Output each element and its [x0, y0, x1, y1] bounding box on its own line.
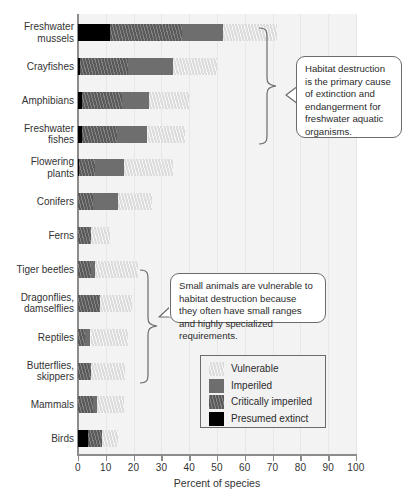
- legend-swatch: [209, 395, 224, 409]
- category-label-line: Tiger beetles: [0, 264, 74, 276]
- x-tick: [328, 455, 329, 461]
- bar-segment: [182, 24, 222, 41]
- x-tick: [189, 455, 190, 461]
- bar-segment: [79, 159, 95, 176]
- category-label-line: Dragonflies,: [0, 292, 74, 304]
- x-tick: [245, 455, 246, 461]
- bar-segment: [91, 227, 110, 244]
- legend-label: Imperiled: [231, 380, 272, 391]
- legend-label: Vulnerable: [231, 363, 278, 374]
- bar-segment: [88, 430, 102, 447]
- category-label-line: plants: [0, 168, 74, 180]
- category-label-line: Reptiles: [0, 332, 74, 344]
- legend: VulnerableImperiledCritically imperiledP…: [200, 355, 326, 428]
- bar-segment: [78, 227, 91, 244]
- category-label-line: Freshwater: [0, 123, 74, 135]
- bar-segment: [102, 430, 119, 447]
- category-label-line: Crayfishes: [0, 61, 74, 73]
- bar-row: [78, 159, 173, 176]
- bar-segment: [78, 24, 110, 41]
- category-label-line: fishes: [0, 134, 74, 146]
- bar-segment: [100, 295, 132, 312]
- bar-segment: [95, 159, 124, 176]
- category-label: Butterflies,skippers: [0, 360, 74, 383]
- category-label-line: Birds: [0, 433, 74, 445]
- bar-row: [78, 295, 132, 312]
- category-label: Conifers: [0, 196, 74, 208]
- bar-segment: [93, 193, 118, 210]
- category-label: Reptiles: [0, 332, 74, 344]
- bar-segment: [117, 126, 148, 143]
- x-axis-label: Percent of species: [78, 477, 356, 489]
- bracket-bottom: [137, 268, 163, 385]
- bar-segment: [110, 24, 182, 41]
- bar-row: [78, 430, 118, 447]
- bar-row: [78, 227, 110, 244]
- bar-row: [78, 193, 152, 210]
- bar-row: [78, 261, 134, 278]
- bar-segment: [148, 126, 186, 143]
- gridline: [134, 14, 135, 454]
- gridline: [189, 14, 190, 454]
- category-label-line: Flowering: [0, 156, 74, 168]
- bar-segment: [78, 363, 91, 380]
- bar-segment: [78, 261, 91, 278]
- category-label: Tiger beetles: [0, 264, 74, 276]
- stacked-bar-chart-figure: 0102030405060708090100 Percent of specie…: [0, 0, 407, 499]
- bar-row: [78, 363, 125, 380]
- x-tick: [273, 455, 274, 461]
- category-label: Floweringplants: [0, 156, 74, 179]
- bar-segment: [95, 261, 138, 278]
- callout-habitat-destruction: Habitat destruction is the primary cause…: [296, 56, 402, 138]
- bar-segment: [78, 329, 85, 346]
- bar-segment: [78, 193, 93, 210]
- bar-row: [78, 92, 189, 109]
- gridline: [161, 14, 162, 454]
- category-label: Birds: [0, 433, 74, 445]
- category-label-line: skippers: [0, 371, 74, 383]
- bar-segment: [97, 396, 123, 413]
- category-label-line: Mammals: [0, 399, 74, 411]
- legend-swatch: [209, 412, 224, 426]
- x-tick: [78, 455, 79, 461]
- bar-segment: [91, 363, 126, 380]
- bar-segment: [78, 295, 100, 312]
- x-tick: [106, 455, 107, 461]
- bar-row: [78, 24, 277, 41]
- bar-segment: [82, 126, 117, 143]
- category-label: Freshwatermussels: [0, 21, 74, 44]
- category-label: Freshwaterfishes: [0, 123, 74, 146]
- x-tick: [356, 455, 357, 461]
- bar-segment: [78, 430, 88, 447]
- category-label: Crayfishes: [0, 61, 74, 73]
- bar-row: [78, 126, 185, 143]
- x-tick: [134, 455, 135, 461]
- category-label-line: Amphibians: [0, 95, 74, 107]
- x-tick: [300, 455, 301, 461]
- bar-segment: [124, 159, 173, 176]
- bar-segment: [82, 92, 122, 109]
- category-label: Amphibians: [0, 95, 74, 107]
- bar-segment: [80, 58, 128, 75]
- category-label-line: Freshwater: [0, 21, 74, 33]
- bracket-top: [256, 26, 282, 146]
- category-label: Mammals: [0, 399, 74, 411]
- bar-segment: [91, 329, 129, 346]
- category-label-line: mussels: [0, 33, 74, 45]
- x-tick: [217, 455, 218, 461]
- bar-segment: [149, 92, 189, 109]
- category-label-line: Ferns: [0, 230, 74, 242]
- bar-segment: [118, 193, 151, 210]
- callout-small-animals: Small animals are vulnerable to habitat …: [170, 273, 326, 323]
- category-label: Dragonflies,damselflies: [0, 292, 74, 315]
- bar-segment: [122, 92, 148, 109]
- bar-row: [78, 329, 128, 346]
- bar-row: [78, 58, 217, 75]
- x-tick-label: 100: [338, 462, 374, 473]
- category-label: Ferns: [0, 230, 74, 242]
- legend-label: Critically imperiled: [231, 396, 312, 407]
- bar-segment: [173, 58, 217, 75]
- bar-segment: [78, 396, 93, 413]
- x-tick: [161, 455, 162, 461]
- legend-swatch: [209, 379, 224, 393]
